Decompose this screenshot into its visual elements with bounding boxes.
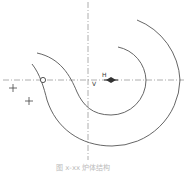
diagram-canvas: H V 图 x-xx 炉体结构 xyxy=(0,0,190,172)
cross-marker xyxy=(25,97,33,105)
figure-caption: 图 x-xx 炉体结构 xyxy=(56,163,110,172)
h-point-label: H xyxy=(102,71,107,78)
cross-marker xyxy=(9,84,17,92)
circle-marker xyxy=(40,77,45,82)
v-point-label: V xyxy=(92,80,97,87)
outer-spiral-curve xyxy=(32,20,180,146)
